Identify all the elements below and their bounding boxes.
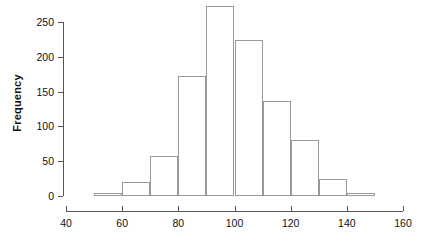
x-axis-tick-label: 160 — [394, 217, 412, 229]
x-axis-tick-label: 100 — [226, 217, 244, 229]
x-axis-line — [66, 211, 403, 212]
x-axis-tick-label: 60 — [116, 217, 128, 229]
x-axis-tick-label: 80 — [172, 217, 184, 229]
x-axis-tick-label: 140 — [338, 217, 356, 229]
histogram-figure: Frequency 050100150200250 40608010012014… — [0, 0, 424, 238]
x-axis: 406080100120140160 — [0, 0, 424, 238]
x-axis-tick-mark — [178, 206, 179, 211]
x-axis-tick-label: 40 — [60, 217, 72, 229]
x-axis-tick-label: 120 — [282, 217, 300, 229]
x-axis-tick-mark — [347, 206, 348, 211]
x-axis-tick-mark — [235, 206, 236, 211]
x-axis-tick-mark — [122, 206, 123, 211]
x-axis-tick-mark — [291, 206, 292, 211]
x-axis-tick-mark — [66, 206, 67, 211]
x-axis-tick-mark — [403, 206, 404, 211]
